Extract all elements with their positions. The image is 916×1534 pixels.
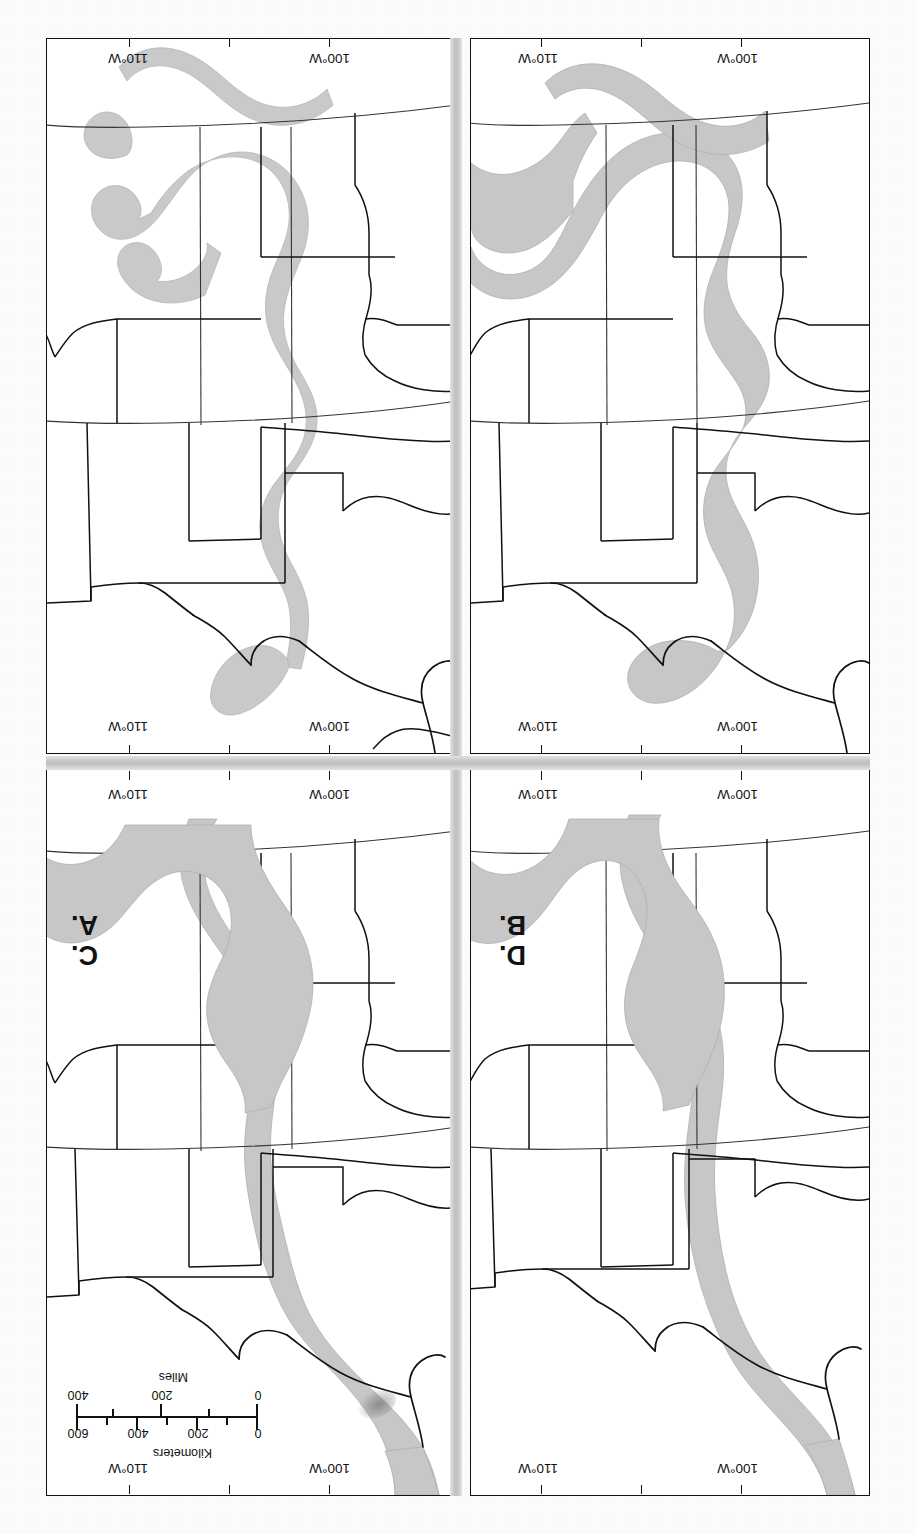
- lon-tick: [541, 38, 542, 47]
- scale-km-minor-tick: [106, 1416, 108, 1425]
- lon-tick: [541, 771, 542, 780]
- lon-tick: [329, 745, 330, 754]
- lon-label-c-110w: 110°W: [108, 787, 148, 802]
- scale-title-miles: Miles: [159, 1370, 188, 1384]
- panel-grid: A. B. C. D. 100°W 110°W 100°W 110°W 100°…: [46, 38, 870, 1496]
- scale-km-tick: [256, 1416, 258, 1430]
- lon-tick: [741, 771, 742, 780]
- scale-mi-minor-tick: [112, 1409, 114, 1418]
- lon-tick: [641, 745, 642, 754]
- lon-tick: [229, 745, 230, 754]
- scale-km-minor-tick: [166, 1416, 168, 1425]
- lon-label-c-110w-top: 110°W: [108, 1461, 148, 1476]
- scale-mi-tick: [76, 1404, 78, 1418]
- scale-title-kilometers: Kilometers: [153, 1446, 212, 1460]
- lon-tick: [541, 745, 542, 754]
- scale-mi-200: 200: [152, 1388, 173, 1402]
- lon-tick: [541, 1485, 542, 1494]
- scale-mi-tick: [160, 1404, 162, 1418]
- lon-label-a-100w: 100°W: [309, 51, 350, 66]
- lon-tick: [229, 1485, 230, 1494]
- lon-label-b-110w-top: 110°W: [518, 719, 558, 734]
- scale-mi-0: 0: [255, 1388, 262, 1402]
- scale-bar: Kilometers 0 200 400 600 0 200: [64, 1358, 264, 1458]
- lon-label-a-110w: 110°W: [108, 51, 148, 66]
- lon-tick: [129, 745, 130, 754]
- lon-label-d-100w-top: 100°W: [717, 1461, 758, 1476]
- lon-tick: [741, 1485, 742, 1494]
- map-panel-b[interactable]: [470, 38, 870, 754]
- scale-km-tick: [76, 1416, 78, 1430]
- lon-tick: [229, 38, 230, 47]
- lon-label-a-110w-top: 110°W: [108, 719, 148, 734]
- scale-km-tick: [136, 1416, 138, 1430]
- lon-tick: [741, 38, 742, 47]
- lon-tick: [329, 38, 330, 47]
- lon-label-b-100w: 100°W: [717, 51, 758, 66]
- lon-label-b-100w-top: 100°W: [717, 719, 758, 734]
- lon-tick: [129, 771, 130, 780]
- lon-tick: [641, 1485, 642, 1494]
- scale-km-minor-tick: [226, 1416, 228, 1425]
- scale-mi-tick: [256, 1404, 258, 1418]
- lon-label-a-100w-top: 100°W: [309, 719, 350, 734]
- scale-rule: [78, 1416, 258, 1418]
- scanned-figure-page: A. B. C. D. 100°W 110°W 100°W 110°W 100°…: [0, 0, 916, 1534]
- scale-mi-400: 400: [68, 1388, 89, 1402]
- panel-label-c: C.: [71, 939, 98, 970]
- lon-tick: [641, 771, 642, 780]
- lon-tick: [129, 1485, 130, 1494]
- map-panel-a[interactable]: [46, 38, 458, 754]
- map-b-graphic: [470, 38, 869, 753]
- lon-tick: [129, 38, 130, 47]
- lon-tick: [229, 771, 230, 780]
- lon-label-d-110w: 110°W: [518, 787, 558, 802]
- lon-label-d-100w: 100°W: [717, 787, 758, 802]
- map-panel-d[interactable]: [470, 766, 870, 1496]
- map-a-graphic: [46, 38, 457, 753]
- lon-tick: [741, 745, 742, 754]
- lon-label-d-110w-top: 110°W: [518, 1461, 558, 1476]
- lon-label-b-110w: 110°W: [518, 51, 558, 66]
- panel-label-b: B.: [499, 909, 526, 940]
- lon-label-c-100w: 100°W: [309, 787, 350, 802]
- map-d-graphic: [470, 766, 869, 1495]
- panel-label-d: D.: [499, 939, 526, 970]
- scale-km-600: 600: [68, 1426, 89, 1440]
- lon-tick: [329, 1485, 330, 1494]
- page-gutter-horizontal: [46, 756, 870, 770]
- lon-tick: [641, 38, 642, 47]
- scale-km-400: 400: [128, 1426, 149, 1440]
- scale-km-tick: [196, 1416, 198, 1430]
- scale-km-200: 200: [188, 1426, 209, 1440]
- scale-mi-minor-tick: [208, 1409, 210, 1418]
- lon-label-c-100w-top: 100°W: [309, 1461, 350, 1476]
- lon-tick: [329, 771, 330, 780]
- panel-label-a: A.: [71, 909, 98, 940]
